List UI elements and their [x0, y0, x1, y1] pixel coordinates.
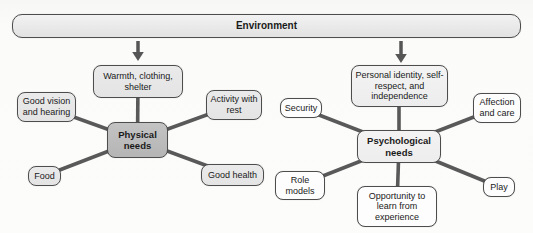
node-food: Food — [28, 166, 61, 186]
node-psychological-needs: Psychological needs — [357, 130, 441, 163]
node-good-health: Good health — [201, 164, 264, 186]
node-warmth-clothing-shelter: Warmth, clothing, shelter — [93, 65, 183, 98]
node-role-models: Role models — [275, 171, 325, 200]
node-play: Play — [483, 177, 515, 197]
arrow-down-left-icon — [132, 41, 144, 61]
needs-diagram: Environment Warmth, clothing, shelter Go… — [0, 0, 533, 233]
node-personal-identity: Personal identity, self-respect, and ind… — [351, 65, 448, 107]
node-opportunity-learn: Opportunity to learn from experience — [357, 186, 437, 227]
node-good-vision-hearing: Good vision and hearing — [17, 92, 76, 122]
arrow-down-right-icon — [395, 41, 407, 63]
node-activity-with-rest: Activity with rest — [206, 90, 262, 120]
environment-bar: Environment — [12, 14, 521, 38]
node-physical-needs: Physical needs — [107, 122, 168, 158]
node-security: Security — [280, 98, 322, 118]
node-affection-care: Affection and care — [473, 93, 521, 123]
